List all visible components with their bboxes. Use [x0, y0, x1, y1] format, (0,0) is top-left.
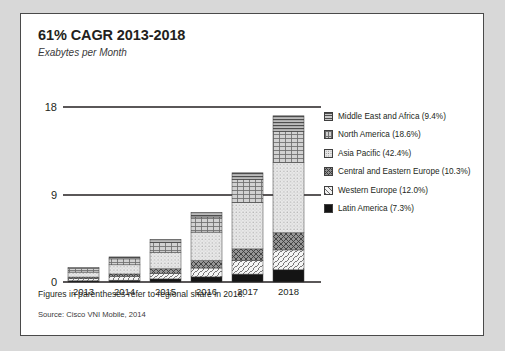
bar-group-2015 [150, 240, 181, 283]
legend-swatch-latin-america [324, 204, 333, 213]
chart-legend: Middle East and Africa (9.4%) North Amer… [324, 107, 474, 218]
legend-swatch-central-and-eastern-europe [324, 167, 333, 176]
y-axis-tick-labels: 18 9 0 [45, 101, 57, 288]
xtick-2018: 2018 [278, 286, 299, 297]
chart-card: 61% CAGR 2013-2018 Exabytes per Month [20, 13, 484, 336]
legend-swatch-north-america [324, 130, 333, 139]
chart-footnote: Figures in parentheses refer to regional… [38, 289, 245, 299]
legend-label-latin-america: Latin America (7.3%) [338, 204, 414, 213]
legend-label-middle-east-and-africa: Middle East and Africa (9.4%) [338, 112, 446, 121]
chart-source: Source: Cisco VNI Mobile, 2014 [38, 310, 146, 319]
legend-label-north-america: North America (18.6%) [338, 130, 421, 139]
bar-group-2014 [109, 257, 140, 282]
bar-group-2013 [68, 267, 99, 282]
legend-swatch-western-europe [324, 186, 333, 195]
bar-group-2018 [273, 116, 304, 282]
ytick-0: 0 [51, 276, 57, 288]
ytick-9: 9 [51, 189, 57, 201]
legend-item-north-america[interactable]: North America (18.6%) [324, 126, 474, 145]
ytick-18: 18 [45, 101, 57, 113]
legend-item-asia-pacific[interactable]: Asia Pacific (42.4%) [324, 144, 474, 163]
legend-item-western-europe[interactable]: Western Europe (12.0%) [324, 181, 474, 200]
legend-item-central-and-eastern-europe[interactable]: Central and Eastern Europe (10.3%) [324, 163, 474, 182]
legend-item-latin-america[interactable]: Latin America (7.3%) [324, 200, 474, 219]
legend-label-asia-pacific: Asia Pacific (42.4%) [338, 149, 411, 158]
bar-group-2017 [232, 173, 263, 282]
legend-swatch-middle-east-and-africa [324, 112, 333, 121]
legend-swatch-asia-pacific [324, 149, 333, 158]
legend-label-western-europe: Western Europe (12.0%) [338, 186, 428, 195]
legend-label-central-and-eastern-europe: Central and Eastern Europe (10.3%) [338, 167, 470, 176]
legend-item-middle-east-and-africa[interactable]: Middle East and Africa (9.4%) [324, 107, 474, 126]
bar-group-2016 [191, 213, 222, 283]
